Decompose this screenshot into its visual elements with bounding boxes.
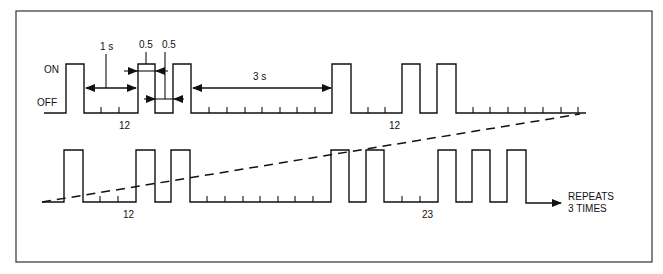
row2-waveform (42, 150, 561, 203)
svg-text:0.5: 0.5 (162, 39, 176, 50)
repeats-note-line2: 3 TIMES (568, 203, 607, 214)
on-label: ON (44, 64, 59, 75)
off-label: OFF (37, 97, 57, 108)
row1-group-label-1: 12 (119, 120, 131, 131)
svg-text:3 s: 3 s (253, 71, 266, 82)
row2-ticks (100, 196, 420, 202)
row2-group-label-2: 23 (422, 209, 434, 220)
svg-text:1 s: 1 s (100, 41, 113, 52)
row1-group-label-2: 12 (389, 120, 401, 131)
row2-group-label-1: 12 (123, 209, 135, 220)
dimension-1s: 1 s (86, 41, 136, 88)
svg-text:0.5: 0.5 (139, 39, 153, 50)
repeats-note-line1: REPEATS (568, 191, 614, 202)
timing-diagram: ON OFF 1 s 0.5 0.5 3 s 12 12 12 23 RE (0, 0, 663, 274)
dimension-3s: 3 s (193, 71, 331, 88)
